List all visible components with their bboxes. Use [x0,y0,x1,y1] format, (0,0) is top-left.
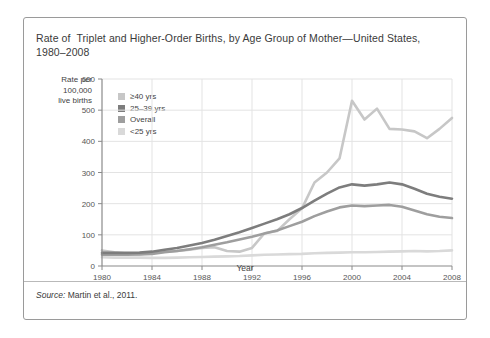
source-divider [24,281,466,282]
svg-text:400: 400 [82,137,96,146]
x-axis-title: Year [24,263,466,273]
svg-text:200: 200 [82,200,96,209]
line-chart-plot: 0100200300400500600198019841988199219962… [24,18,468,321]
svg-text:300: 300 [82,169,96,178]
source-citation: Martin et al., 2011. [65,290,137,300]
figure-frame: Rate of Triplet and Higher-Order Births,… [23,17,467,320]
svg-text:600: 600 [82,75,96,84]
svg-text:500: 500 [82,106,96,115]
source-label: Source: [36,290,65,300]
svg-text:100: 100 [82,231,96,240]
source-note: Source: Martin et al., 2011. [36,290,137,300]
